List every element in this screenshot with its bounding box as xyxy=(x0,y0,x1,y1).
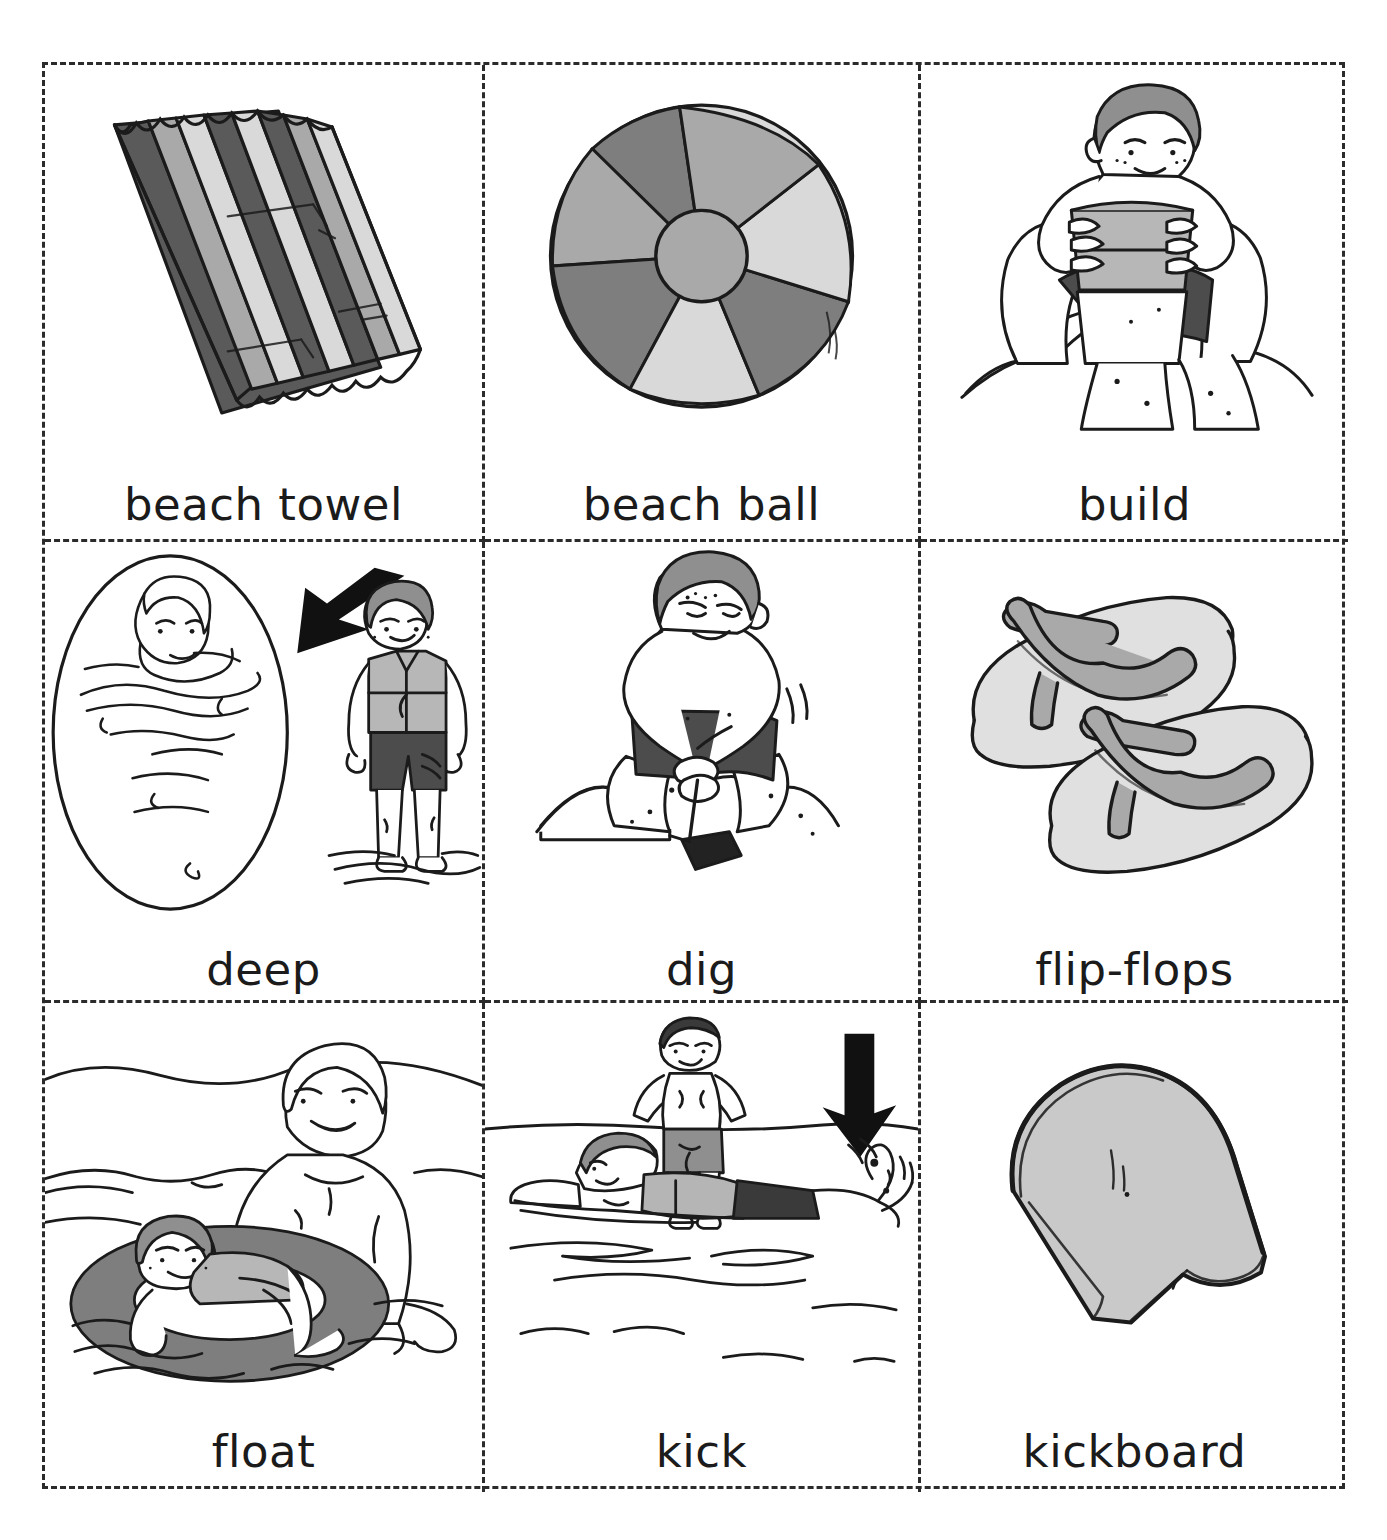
card-float[interactable]: float xyxy=(45,1003,485,1492)
deep-illustration xyxy=(45,542,482,924)
beach-ball-illustration xyxy=(485,65,918,463)
flashcard-grid: beach towel xyxy=(42,62,1345,1489)
card-label: kickboard xyxy=(921,1429,1348,1474)
card-label: build xyxy=(921,482,1348,527)
card-build[interactable]: build xyxy=(921,65,1348,542)
card-label: kick xyxy=(485,1429,918,1474)
build-illustration xyxy=(921,65,1348,463)
card-beach-ball[interactable]: beach ball xyxy=(485,65,921,542)
card-label: dig xyxy=(485,947,918,992)
card-label: float xyxy=(45,1429,482,1474)
card-kickboard[interactable]: kickboard xyxy=(921,1003,1348,1492)
kick-illustration xyxy=(485,1003,918,1416)
beach-towel-illustration xyxy=(45,65,482,463)
card-label: beach ball xyxy=(485,482,918,527)
card-dig[interactable]: dig xyxy=(485,542,921,1003)
flashcard-sheet: beach towel xyxy=(0,0,1387,1540)
card-flip-flops[interactable]: flip-flops xyxy=(921,542,1348,1003)
card-beach-towel[interactable]: beach towel xyxy=(45,65,485,542)
card-deep[interactable]: deep xyxy=(45,542,485,1003)
card-label: flip-flops xyxy=(921,947,1348,992)
dig-illustration xyxy=(485,542,918,924)
flip-flops-illustration xyxy=(921,542,1348,924)
kickboard-illustration xyxy=(921,1003,1348,1416)
card-label: deep xyxy=(45,947,482,992)
card-kick[interactable]: kick xyxy=(485,1003,921,1492)
card-label: beach towel xyxy=(45,482,482,527)
float-illustration xyxy=(45,1003,482,1416)
